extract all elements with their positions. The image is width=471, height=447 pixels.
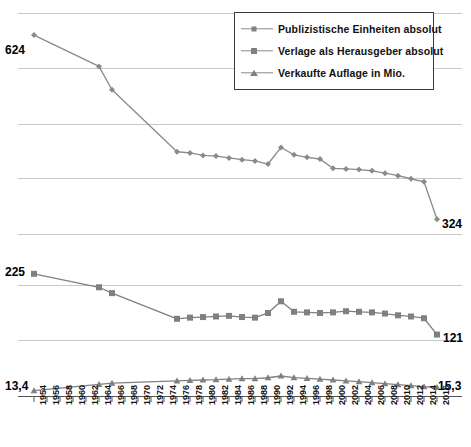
data-point-marker <box>291 309 297 315</box>
x-tick-label: 1990 <box>272 385 282 405</box>
chart-container: Publizistische Einheiten absolut Verlage… <box>0 0 471 447</box>
data-point-marker <box>252 158 258 164</box>
x-tick-label: 2006 <box>376 385 386 405</box>
x-tick-label: 1982 <box>220 385 230 405</box>
x-tick-label: 1994 <box>298 385 308 405</box>
data-point-marker <box>278 298 284 304</box>
data-point-marker <box>213 153 219 159</box>
x-tick-label: 1966 <box>116 385 126 405</box>
x-tick-label: 2000 <box>337 385 347 405</box>
legend-marker-square-icon <box>241 45 273 57</box>
data-point-marker <box>278 373 285 379</box>
data-point-marker <box>382 311 388 317</box>
data-point-marker <box>304 154 310 160</box>
data-point-marker <box>343 166 349 172</box>
legend-marker-triangle-icon <box>241 67 273 79</box>
data-point-marker <box>369 309 375 315</box>
data-point-marker <box>187 315 193 321</box>
x-tick-label: 1992 <box>285 385 295 405</box>
legend-item-verlage-als-herausgeber: Verlage als Herausgeber absolut <box>241 40 427 62</box>
data-point-marker <box>421 315 427 321</box>
x-tick-label: 1984 <box>233 385 243 405</box>
data-point-marker <box>369 168 375 174</box>
data-point-marker <box>174 316 180 322</box>
x-tick-label: 2002 <box>350 385 360 405</box>
x-tick-label: 2004 <box>363 385 373 405</box>
data-point-marker <box>317 310 323 316</box>
legend-label: Publizistische Einheiten absolut <box>278 23 442 35</box>
data-point-marker <box>239 157 245 163</box>
x-tick-label: 2010 <box>402 385 412 405</box>
data-point-marker <box>330 309 336 315</box>
data-point-marker <box>226 155 232 161</box>
x-tick-label: 1968 <box>129 385 139 405</box>
data-point-marker <box>31 271 37 277</box>
data-point-marker <box>395 312 401 318</box>
data-point-marker <box>252 315 258 321</box>
data-point-marker <box>343 308 349 314</box>
data-point-marker <box>382 170 388 176</box>
legend-item-verkaufte-auflage: Verkaufte Auflage in Mio. <box>241 62 427 84</box>
x-tick-label: 1998 <box>324 385 334 405</box>
data-point-marker <box>421 179 427 185</box>
data-point-marker <box>200 152 206 158</box>
data-point-marker <box>226 313 232 319</box>
legend-label: Verkaufte Auflage in Mio. <box>278 67 405 79</box>
x-tick-label: 1958 <box>64 385 74 405</box>
value-label-mid-start: 225 <box>5 265 25 279</box>
x-tick-label: 1956 <box>51 385 61 405</box>
data-point-marker <box>213 313 219 319</box>
data-point-marker <box>31 32 37 38</box>
value-label-mid-end: 121 <box>443 331 463 345</box>
x-tick-label: 2016 <box>441 385 451 405</box>
data-point-marker <box>408 313 414 319</box>
value-label-bot-start: 13,4 <box>5 379 28 393</box>
x-tick-label: 1976 <box>181 385 191 405</box>
legend-item-publizistische-einheiten: Publizistische Einheiten absolut <box>241 18 427 40</box>
x-tick-label: 1988 <box>259 385 269 405</box>
x-tick-label: 1962 <box>90 385 100 405</box>
value-label-top-end: 324 <box>442 217 462 231</box>
data-point-marker <box>109 290 115 296</box>
series-line <box>34 274 437 335</box>
legend-label: Verlage als Herausgeber absolut <box>278 45 443 57</box>
data-point-marker <box>200 314 206 320</box>
data-point-marker <box>291 152 297 158</box>
x-tick-label: 1972 <box>155 385 165 405</box>
x-tick-label: 1964 <box>103 385 113 405</box>
x-tick-label: 1954 <box>38 385 48 405</box>
data-point-marker <box>356 167 362 173</box>
value-label-top-start: 624 <box>5 43 25 57</box>
x-tick-label: 1960 <box>77 385 87 405</box>
data-point-marker <box>304 309 310 315</box>
x-tick-label: 1986 <box>246 385 256 405</box>
data-point-marker <box>265 310 271 316</box>
data-point-marker <box>434 332 440 338</box>
data-point-marker <box>187 150 193 156</box>
x-tick-label: 1996 <box>311 385 321 405</box>
x-tick-label: 1978 <box>194 385 204 405</box>
data-point-marker <box>395 173 401 179</box>
x-tick-label: 2012 <box>415 385 425 405</box>
data-point-marker <box>434 216 440 222</box>
x-tick-label: 2008 <box>389 385 399 405</box>
data-point-marker <box>356 309 362 315</box>
legend-marker-diamond-icon <box>241 23 273 35</box>
x-tick-label: 2014 <box>428 385 438 405</box>
data-point-marker <box>96 284 102 290</box>
x-tick-label: 1980 <box>207 385 217 405</box>
data-point-marker <box>239 314 245 320</box>
x-tick-label: 1970 <box>142 385 152 405</box>
chart-legend: Publizistische Einheiten absolut Verlage… <box>234 12 434 90</box>
x-tick-label: 1974 <box>168 385 178 405</box>
data-point-marker <box>408 176 414 182</box>
